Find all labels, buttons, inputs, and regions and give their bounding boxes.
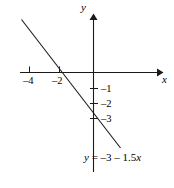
x-axis-label: x [162,74,167,85]
x-tick-label-neg2: –2 [52,76,63,87]
y-axis-arrowhead [90,14,98,21]
equation-body: = –3 – 1.5 [89,151,136,163]
y-tick-label-neg1: –1 [101,84,112,95]
y-tick-label-neg3: –3 [101,114,112,125]
y-axis-label: y [81,2,86,13]
equation-annotation: y = –3 – 1.5x [84,152,141,163]
line-graph-figure: y x –4 –2 –1 –2 –3 y = –3 – 1.5x [0,0,174,188]
x-tick-label-neg4: –4 [23,76,34,87]
y-tick-label-neg2: –2 [101,99,112,110]
equation-var-x: x [136,151,141,163]
